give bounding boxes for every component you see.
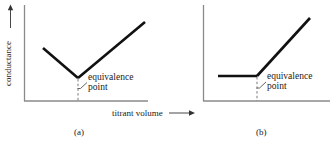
figure-container: equivalence point (a) conductance titran… xyxy=(0,0,330,142)
x-axis-label-text: titrant volume xyxy=(112,108,163,118)
panel-b-equivalence-label-line1: equivalence xyxy=(267,71,312,81)
panel-a-equivalence-label-line1: equivalence xyxy=(88,72,133,82)
panel-a-equivalence-label-line2: point xyxy=(88,82,108,92)
panel-b-caption: (b) xyxy=(256,127,267,137)
right-arrow-icon xyxy=(189,110,195,116)
panel-a-annotation-leader-line xyxy=(78,83,88,89)
panel-a-curve-descending-branch xyxy=(43,48,78,78)
panel-b-equivalence-label-line2: point xyxy=(267,81,287,91)
conductometric-titration-figure: equivalence point (a) conductance titran… xyxy=(0,0,330,142)
x-axis-label-group: titrant volume xyxy=(112,108,195,118)
panel-b: equivalence point (b) xyxy=(203,5,330,137)
y-axis-label-group: conductance xyxy=(3,5,13,87)
panel-b-annotation-leader-line xyxy=(257,82,267,88)
up-arrow-icon xyxy=(8,5,13,11)
panel-a-caption: (a) xyxy=(74,127,84,137)
panel-a-curve-ascending-branch xyxy=(78,22,145,78)
panel-b-curve-rising-branch xyxy=(257,18,310,76)
y-axis-label-text: conductance xyxy=(3,41,13,86)
